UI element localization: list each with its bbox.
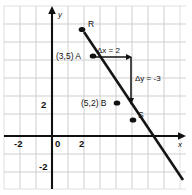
- delta-x-label: Δx = 2: [97, 46, 120, 55]
- y-tick-label-2: 2: [41, 99, 46, 110]
- point-r-label: R: [88, 19, 94, 29]
- x-tick-label-2: 2: [79, 138, 84, 149]
- graph-screenshot: y x -2 0 2 2 -2 R (3,5) A (5,2) B S Δx =…: [0, 0, 192, 195]
- delta-y-label: Δy = -3: [135, 74, 161, 83]
- point-s-label: S: [138, 110, 144, 120]
- x-tick-label-neg2: -2: [14, 138, 22, 149]
- point-s-dot: [130, 117, 137, 122]
- point-b-label: (5,2) B: [81, 98, 107, 108]
- point-a-label: (3,5) A: [56, 51, 81, 61]
- point-r-dot: [79, 27, 86, 32]
- coordinate-plane-graph: y x -2 0 2 2 -2 R (3,5) A (5,2) B S Δx =…: [0, 0, 192, 195]
- y-tick-label-neg2: -2: [39, 161, 47, 172]
- point-a-dot: [90, 53, 97, 58]
- point-b-dot: [114, 100, 121, 105]
- x-tick-label-0: 0: [55, 138, 60, 149]
